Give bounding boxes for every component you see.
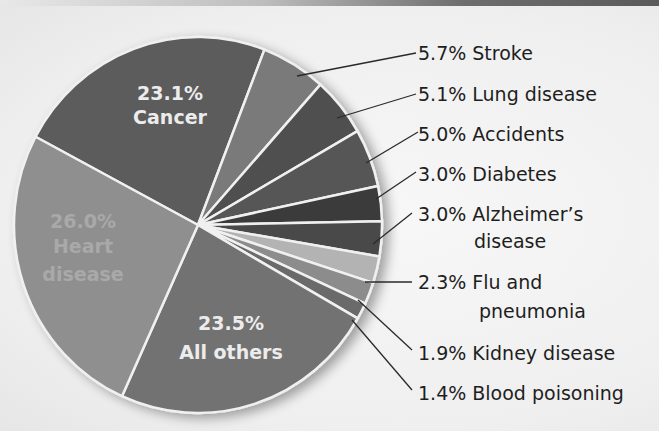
callout-accidents: 5.0% Accidents [418, 123, 564, 145]
leader-line-lung [337, 94, 416, 118]
others-name: All others [179, 341, 283, 363]
callout-diabetes: 3.0% Diabetes [418, 163, 557, 185]
callout-lung-disease: 5.1% Lung disease [418, 83, 597, 105]
leader-line-diabetes [376, 172, 416, 199]
leader-line-kidney [358, 300, 412, 350]
callout-stroke: 5.7% Stroke [418, 42, 533, 64]
pie-chart: 23.1% Cancer 26.0% Heart disease 23.5% A… [0, 0, 659, 431]
callout-blood-poisoning: 1.4% Blood poisoning [418, 382, 624, 404]
callout-flu-line1: 2.3% Flu and [418, 271, 542, 293]
leader-line-blood [352, 320, 412, 390]
callout-alzheimers-line1: 3.0% Alzheimer’s [418, 203, 584, 225]
cancer-percent: 23.1% [137, 82, 203, 104]
callout-kidney-disease: 1.9% Kidney disease [418, 342, 615, 364]
heart-percent: 26.0% [50, 210, 116, 232]
leader-line-accidents [366, 132, 418, 163]
label-heart-disease: 26.0% Heart disease [42, 210, 123, 285]
heart-name-line2: disease [42, 263, 123, 285]
callout-alzheimers-line2: disease [474, 230, 546, 252]
leader-line-stroke [297, 53, 416, 76]
callout-flu-line2: pneumonia [479, 300, 586, 322]
others-percent: 23.5% [198, 312, 264, 334]
cancer-name: Cancer [133, 106, 207, 128]
heart-name-line1: Heart [53, 235, 113, 257]
